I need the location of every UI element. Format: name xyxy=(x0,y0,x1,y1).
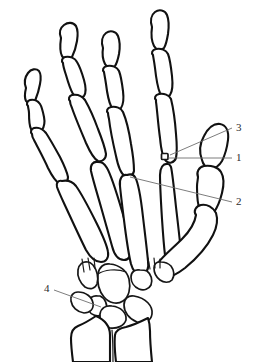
bone-ring-middle-phalanx xyxy=(62,57,86,98)
bone-trapezium xyxy=(154,262,174,282)
bone-trapezoid xyxy=(131,270,152,290)
label-2: 2 xyxy=(236,196,242,207)
bone-little-proximal-phalanx xyxy=(31,128,68,184)
bone-index-middle-phalanx xyxy=(152,49,172,97)
bone-sesamoid xyxy=(162,154,169,160)
label-3: 3 xyxy=(236,122,242,133)
bone-index-distal-phalanx xyxy=(151,10,169,49)
bone-middle-middle-phalanx xyxy=(103,66,123,110)
hand-skeleton-drawing xyxy=(0,0,257,362)
hand-skeleton-figure: 3 1 2 4 xyxy=(0,0,257,362)
bone-middle-distal-phalanx xyxy=(102,31,120,67)
radius-ulna-gap xyxy=(112,330,113,362)
bone-middle-proximal-phalanx xyxy=(107,107,134,177)
bone-ring-proximal-phalanx xyxy=(69,95,106,161)
label-4: 4 xyxy=(44,283,50,294)
label-1: 1 xyxy=(236,152,242,163)
bone-thumb-distal-phalanx xyxy=(200,124,228,168)
bone-ulna xyxy=(71,316,110,362)
bone-ring-distal-phalanx xyxy=(60,23,78,59)
bone-index-proximal-phalanx xyxy=(155,94,177,163)
bone-little-distal-phalanx xyxy=(25,69,41,103)
